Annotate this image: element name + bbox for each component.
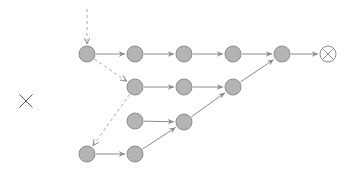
edge-r1-r2 bbox=[144, 121, 174, 122]
state-node-r1 bbox=[127, 113, 143, 129]
state-node-m3 bbox=[225, 79, 241, 95]
edges bbox=[93, 54, 318, 154]
terminal-state-icon bbox=[320, 46, 336, 62]
state-node-b2 bbox=[127, 146, 143, 162]
edge-m1-b1 bbox=[93, 94, 130, 146]
state-node-m1 bbox=[127, 79, 143, 95]
state-node-n2 bbox=[127, 46, 143, 62]
edge-n1-m1 bbox=[94, 59, 126, 81]
state-node-r2 bbox=[176, 114, 192, 130]
edge-r2-m3 bbox=[191, 93, 225, 117]
state-node-m2 bbox=[176, 79, 192, 95]
edge-m3-n5 bbox=[240, 60, 273, 82]
state-diagram bbox=[0, 0, 355, 171]
state-node-n4 bbox=[225, 46, 241, 62]
state-node-n5 bbox=[274, 46, 290, 62]
nodes bbox=[79, 46, 290, 162]
state-node-n1 bbox=[79, 46, 95, 62]
cross-icon bbox=[20, 95, 33, 108]
state-node-n3 bbox=[176, 46, 192, 62]
edge-b2-r2 bbox=[143, 127, 176, 149]
state-node-b1 bbox=[79, 146, 95, 162]
